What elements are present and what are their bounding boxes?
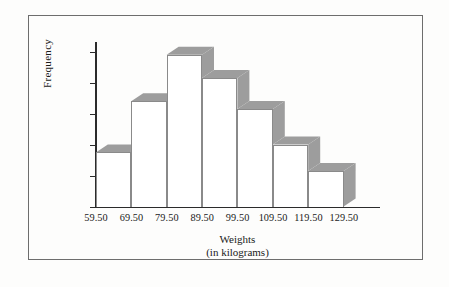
bar-front-face: [308, 171, 343, 207]
x-axis-line: [95, 207, 380, 209]
x-axis-title: Weights (in kilograms): [95, 233, 380, 259]
y-axis-title: Frequency: [41, 39, 53, 88]
x-tick-label-79-50: 79.50: [149, 212, 185, 223]
plot-area: 500 400 300 200 100 0 Frequency: [0, 0, 449, 287]
histogram-bar-3: [167, 55, 202, 207]
bar-front-face: [202, 78, 237, 207]
bar-front-face: [237, 109, 272, 207]
y-tick-200: [90, 145, 96, 147]
x-tick-label-69-50: 69.50: [114, 212, 150, 223]
y-tick-0: [90, 207, 96, 209]
histogram-bar-4: [202, 78, 237, 207]
y-tick-400: [90, 83, 96, 85]
histogram-bar-6: [273, 145, 308, 207]
histogram-bar-2: [131, 101, 166, 206]
y-tick-100: [90, 176, 96, 178]
x-tick-label-129-50: 129.50: [324, 212, 364, 223]
histogram-bar-1: [96, 152, 131, 206]
y-tick-500: [90, 52, 96, 54]
x-tick-label-89-50: 89.50: [184, 212, 220, 223]
histogram-bar-5: [237, 109, 272, 207]
x-tick-label-109-50: 109.50: [253, 212, 293, 223]
x-tick-label-119-50: 119.50: [289, 212, 329, 223]
x-tick-label-59-50: 59.50: [78, 212, 114, 223]
x-axis-title-unit: (in kilograms): [95, 246, 380, 259]
bar-front-face: [273, 145, 308, 207]
x-axis-title-main: Weights: [95, 233, 380, 246]
bar-front-face: [167, 55, 202, 207]
histogram-figure: 500 400 300 200 100 0 Frequency: [0, 0, 449, 287]
bar-front-face: [131, 101, 166, 206]
x-tick-label-99-50: 99.50: [220, 212, 256, 223]
histogram-bar-7: [308, 171, 343, 207]
bar-front-face: [96, 152, 131, 206]
y-tick-300: [90, 114, 96, 116]
